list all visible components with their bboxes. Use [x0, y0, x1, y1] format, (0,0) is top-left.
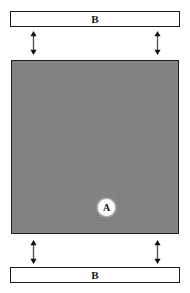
bottom-left-gap-arrow [28, 240, 39, 264]
plate-bottom: B [10, 267, 180, 283]
plate-top: B [10, 11, 180, 27]
double-arrow-vertical-icon [152, 31, 163, 55]
block-texture [12, 61, 178, 233]
plate-bottom-label: B [91, 270, 99, 281]
diagram-canvas: B A [0, 0, 190, 293]
top-left-gap-arrow [28, 31, 39, 55]
central-block: A [11, 60, 179, 234]
double-arrow-vertical-icon [28, 240, 39, 264]
block-label: A [103, 203, 110, 213]
block-label-bubble: A [98, 199, 115, 216]
top-right-gap-arrow [152, 31, 163, 55]
bottom-right-gap-arrow [152, 240, 163, 264]
double-arrow-vertical-icon [152, 240, 163, 264]
plate-top-label: B [91, 14, 99, 25]
double-arrow-vertical-icon [28, 31, 39, 55]
